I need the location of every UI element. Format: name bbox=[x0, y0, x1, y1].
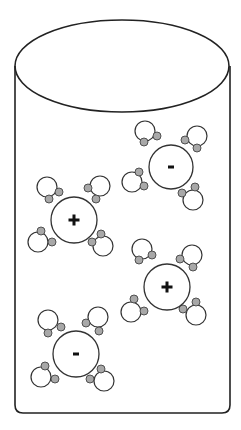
oxygen-atom bbox=[121, 302, 141, 322]
oxygen-atom bbox=[90, 176, 110, 196]
hydrogen-atom bbox=[37, 227, 45, 235]
hydrogen-atom bbox=[189, 263, 197, 271]
water-molecule bbox=[181, 126, 207, 152]
hydrogen-atom bbox=[95, 327, 103, 335]
hydrogen-atom bbox=[48, 238, 56, 246]
water-molecule bbox=[84, 176, 110, 203]
minus-sign-icon bbox=[168, 166, 174, 169]
water-molecule bbox=[178, 183, 203, 210]
oxygen-atom bbox=[37, 177, 57, 197]
hydrogen-atom bbox=[130, 295, 138, 303]
water-molecule bbox=[132, 239, 156, 264]
hydrogen-atom bbox=[97, 230, 105, 238]
hydrogen-atom bbox=[140, 307, 148, 315]
hydrogen-atom bbox=[84, 184, 92, 192]
hydrogen-atom bbox=[86, 375, 94, 383]
hydrogen-atom bbox=[57, 323, 65, 331]
oxygen-atom bbox=[187, 126, 207, 146]
hydrogen-atom bbox=[51, 375, 59, 383]
water-molecule bbox=[37, 177, 63, 203]
hydrogen-atom bbox=[45, 195, 53, 203]
hydrogen-atom bbox=[55, 188, 63, 196]
hydrogen-atom bbox=[41, 362, 49, 370]
oxygen-atom bbox=[182, 245, 202, 265]
oxygen-atom bbox=[31, 367, 51, 387]
minus-sign-icon bbox=[73, 353, 79, 356]
beaker-container bbox=[15, 20, 230, 413]
water-molecule bbox=[121, 295, 148, 322]
hydrogen-atom bbox=[135, 168, 143, 176]
water-molecule bbox=[82, 307, 108, 335]
hydrogen-atom bbox=[193, 144, 201, 152]
diagram-canvas bbox=[0, 0, 241, 430]
hydrogen-atom bbox=[82, 319, 90, 327]
water-molecule bbox=[176, 245, 202, 271]
hydrogen-atom bbox=[44, 329, 52, 337]
water-molecule bbox=[28, 227, 56, 252]
oxygen-atom bbox=[94, 371, 114, 391]
hydrogen-atom bbox=[97, 365, 105, 373]
hydrogen-atom bbox=[148, 251, 156, 259]
oxygen-atom bbox=[93, 236, 113, 256]
ion-group bbox=[28, 121, 207, 391]
ion-bottom-left bbox=[31, 307, 114, 391]
hydrogen-atom bbox=[88, 238, 96, 246]
water-molecule bbox=[38, 310, 65, 337]
ion-middle-left bbox=[28, 176, 113, 256]
hydrogen-atom bbox=[135, 256, 143, 264]
ion-middle-right bbox=[121, 239, 206, 325]
hydrogen-atom bbox=[153, 132, 161, 140]
hydrogen-atom bbox=[178, 189, 186, 197]
oxygen-atom bbox=[88, 307, 108, 327]
hydrogen-atom bbox=[140, 182, 148, 190]
water-molecule bbox=[122, 168, 148, 192]
hydrogen-atom bbox=[192, 298, 200, 306]
hydrogen-atom bbox=[191, 183, 199, 191]
oxygen-atom bbox=[38, 310, 58, 330]
water-molecule bbox=[31, 362, 59, 387]
oxygen-atom bbox=[186, 305, 206, 325]
hydrogen-atom bbox=[176, 255, 184, 263]
oxygen-atom bbox=[28, 232, 48, 252]
beaker-rim bbox=[15, 20, 229, 112]
hydrogen-atom bbox=[181, 136, 189, 144]
ion-top-right bbox=[122, 121, 207, 210]
hydrogen-atom bbox=[92, 195, 100, 203]
solvation-diagram bbox=[0, 0, 241, 430]
hydrogen-atom bbox=[140, 138, 148, 146]
water-molecule bbox=[135, 121, 161, 146]
